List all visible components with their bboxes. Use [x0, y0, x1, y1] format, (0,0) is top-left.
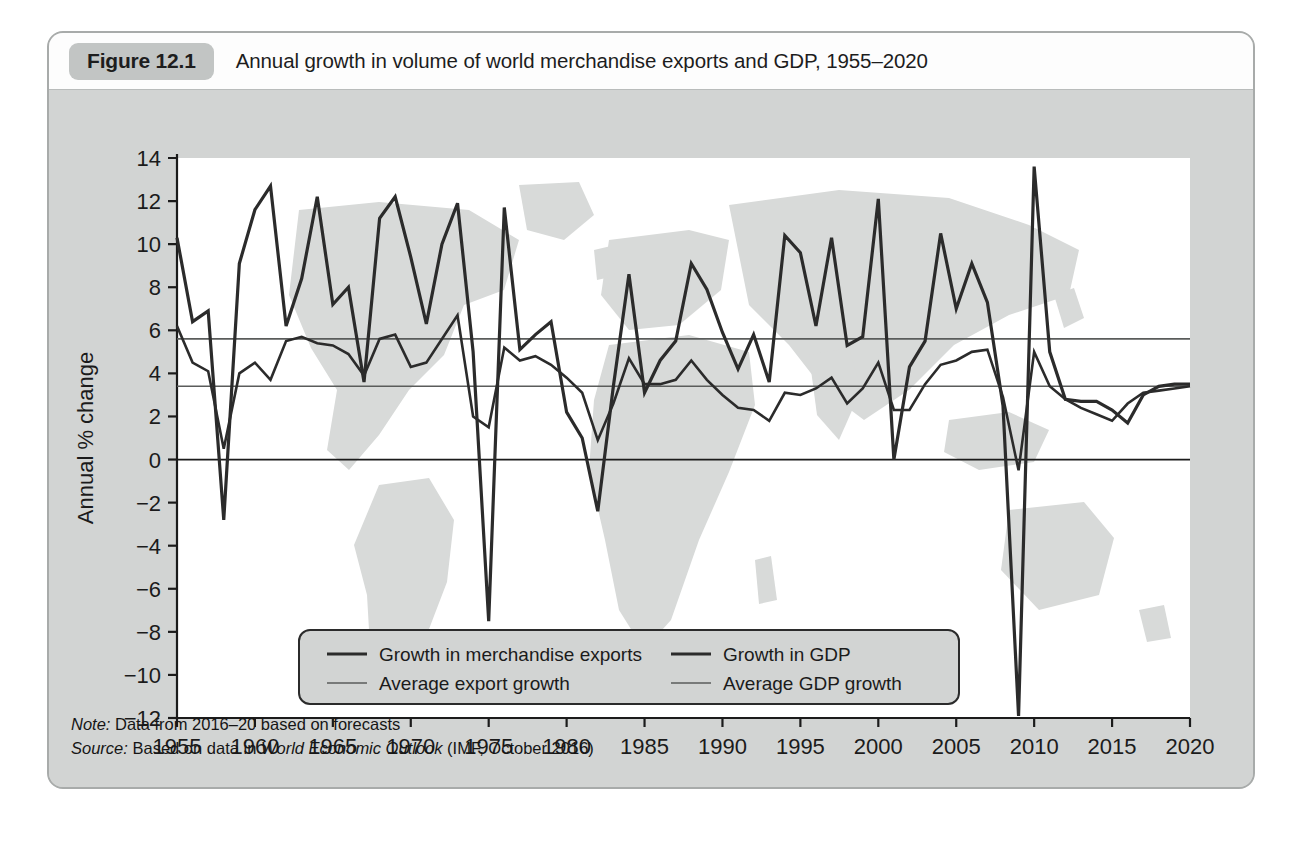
line-chart: 14121086420−2−4−6−8−10−12195519601965197… — [49, 90, 1253, 789]
x-tick-label: 2020 — [1166, 734, 1215, 759]
figure-number-badge: Figure 12.1 — [69, 43, 214, 80]
y-tick-label: 2 — [149, 404, 161, 429]
y-tick-label: 12 — [137, 189, 161, 214]
source-line: Source: Based on data in World Economic … — [71, 737, 594, 761]
figure-title: Annual growth in volume of world merchan… — [236, 49, 928, 73]
y-tick-label: 6 — [149, 318, 161, 343]
figure-title-bar: Figure 12.1 Annual growth in volume of w… — [49, 33, 1253, 90]
source-prefix: Based on data in — [132, 739, 256, 757]
chart-area: 14121086420−2−4−6−8−10−12195519601965197… — [49, 90, 1253, 789]
x-tick-label: 1990 — [698, 734, 747, 759]
x-tick-label: 2005 — [932, 734, 981, 759]
x-tick-label: 2015 — [1088, 734, 1137, 759]
x-tick-label: 2010 — [1010, 734, 1059, 759]
y-tick-label: −2 — [136, 491, 161, 516]
note-label: Note: — [71, 715, 110, 733]
chart-legend: Growth in merchandise exportsGrowth in G… — [299, 630, 959, 704]
source-label: Source: — [71, 739, 128, 757]
y-tick-label: −6 — [136, 577, 161, 602]
y-tick-label: −10 — [124, 663, 161, 688]
note-text: Data from 2016–20 based on forecasts — [115, 715, 400, 733]
y-tick-label: −8 — [136, 620, 161, 645]
figure-card: Figure 12.1 Annual growth in volume of w… — [47, 31, 1255, 789]
legend-label: Average export growth — [379, 673, 570, 694]
source-suffix: (IMF, October 2016) — [447, 739, 594, 757]
x-tick-label: 1985 — [620, 734, 669, 759]
y-tick-label: 8 — [149, 275, 161, 300]
legend-label: Growth in GDP — [723, 644, 851, 665]
source-publication: World Economic Outlook — [261, 739, 443, 757]
x-tick-label: 1995 — [776, 734, 825, 759]
y-tick-label: 14 — [137, 146, 161, 171]
note-line: Note: Data from 2016–20 based on forecas… — [71, 713, 594, 737]
y-tick-label: −4 — [136, 534, 161, 559]
legend-label: Growth in merchandise exports — [379, 644, 642, 665]
y-tick-label: 4 — [149, 361, 161, 386]
y-tick-label: 0 — [149, 448, 161, 473]
x-tick-label: 2000 — [854, 734, 903, 759]
y-tick-label: 10 — [137, 232, 161, 257]
figure-notes: Note: Data from 2016–20 based on forecas… — [71, 713, 594, 761]
y-axis-title: Annual % change — [73, 352, 98, 524]
legend-label: Average GDP growth — [723, 673, 902, 694]
